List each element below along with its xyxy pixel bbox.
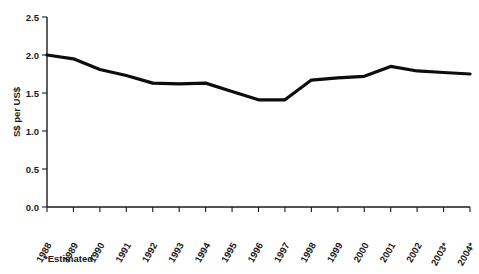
y-axis-title: S$ per US$ [11,86,22,137]
x-axis-tick-labels: 1988198919901991199219931994199519961997… [34,240,477,268]
y-tick-label: 0.0 [26,202,39,213]
y-tick-label: 0.5 [26,164,40,175]
x-tick-label: 1994 [192,240,212,264]
line-chart: 0.00.51.01.52.02.5 198819891990199119921… [0,0,479,274]
x-tick-label: 2000 [351,241,371,265]
x-tick-label: 1998 [298,241,318,265]
y-tick-label: 1.5 [26,88,40,99]
x-tick-label: 1995 [219,240,239,264]
y-axis-tick-labels: 0.00.51.01.52.02.5 [26,12,40,213]
x-tick-label: 1993 [166,241,186,265]
y-tick-label: 2.0 [26,50,39,61]
y-tick-label: 1.0 [26,126,39,137]
x-tick-label: 1997 [272,241,292,265]
x-tick-label: 1991 [113,240,133,264]
y-tick-label: 2.5 [26,12,40,23]
x-tick-label: 1999 [324,241,344,265]
x-tick-label: 2002 [404,241,424,265]
x-tick-label: 1992 [139,241,159,265]
chart-container: 0.00.51.01.52.02.5 198819891990199119921… [0,0,479,274]
data-series-line [47,55,470,100]
x-tick-label: 1996 [245,241,265,265]
x-tick-label: 2004* [455,240,477,267]
y-axis-ticks [42,17,47,207]
x-tick-label: 2003* [428,240,450,267]
footnote-estimated: *Estimated [44,253,93,264]
x-axis-ticks [47,207,470,212]
x-tick-label: 2001 [377,240,397,264]
